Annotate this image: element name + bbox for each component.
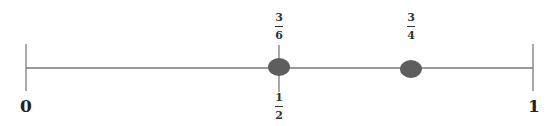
numerator: 3 bbox=[269, 12, 289, 23]
label-three-fourths: 3 4 bbox=[401, 12, 421, 41]
fraction-bar bbox=[407, 26, 415, 27]
numerator: 1 bbox=[269, 92, 289, 103]
point-three-quarters-dot bbox=[400, 60, 422, 78]
label-zero: 0 bbox=[20, 96, 32, 116]
label-one-half: 1 2 bbox=[269, 92, 289, 121]
denominator: 2 bbox=[269, 110, 289, 121]
denominator: 4 bbox=[401, 30, 421, 41]
denominator: 6 bbox=[269, 30, 289, 41]
label-three-sixths: 3 6 bbox=[269, 12, 289, 41]
label-one: 1 bbox=[528, 96, 540, 116]
point-half-dot bbox=[268, 58, 290, 76]
fraction-bar bbox=[275, 106, 283, 107]
fraction-bar bbox=[275, 26, 283, 27]
numerator: 3 bbox=[401, 12, 421, 23]
